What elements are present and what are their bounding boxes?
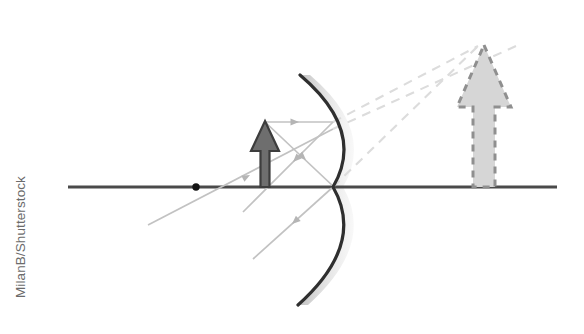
mirror-glow xyxy=(298,75,354,305)
ray-diagram xyxy=(0,0,584,334)
focal-point-marker xyxy=(192,183,199,190)
ray-virtual-extension-lower xyxy=(333,46,478,187)
ray-virtual-extension-upper xyxy=(333,46,478,122)
ray-focal-construction xyxy=(148,129,333,225)
ray-incident-parallel-arrowhead xyxy=(291,118,300,125)
virtual-image-arrow xyxy=(457,45,511,187)
figure-canvas: MilanB/Shutterstock xyxy=(0,0,584,334)
